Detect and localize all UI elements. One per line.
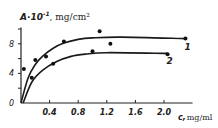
x-tick-label: 0.8 (71, 108, 86, 117)
data-point-1 (98, 29, 102, 33)
labels: 12 (167, 42, 191, 67)
data-point-1 (33, 58, 37, 62)
x-tick-label: 2.0 (157, 108, 172, 117)
curve-1 (21, 37, 185, 103)
y-tick-label: 8 (9, 40, 14, 49)
curve-label-2: 2 (167, 56, 173, 66)
curves (21, 37, 185, 103)
y-tick-label: 4 (9, 69, 14, 78)
y-axis-label: A·10-1, mg/cm² (19, 10, 90, 22)
x-tick-label: 0.4 (43, 108, 58, 117)
curve-2 (23, 53, 167, 103)
chart: 0.40.81.21.62.0048 12 A·10-1, mg/cm² c,m… (0, 0, 218, 128)
data-point-1 (22, 67, 26, 71)
data-point-2 (91, 49, 95, 53)
data-point-2 (51, 62, 55, 66)
axes: 0.40.81.21.62.0048 (9, 28, 193, 117)
data-point-1 (183, 37, 187, 41)
x-tick-label: 1.6 (128, 108, 143, 117)
x-axis-label: c,mg/ml (178, 113, 213, 122)
data-point-1 (62, 40, 66, 44)
data-point-2 (108, 42, 112, 46)
x-tick-label: 1.2 (100, 108, 115, 117)
data-point-1 (44, 54, 48, 58)
curve-label-1: 1 (184, 42, 190, 52)
data-point-2 (30, 76, 34, 80)
y-tick-label: 0 (9, 99, 14, 108)
